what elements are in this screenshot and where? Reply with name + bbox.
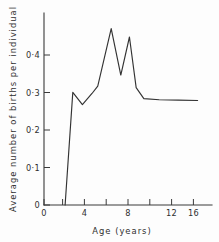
y-axis-ticks: [44, 55, 50, 205]
y-axis: 0 0·1 0·2 0·3 0·4 Average number of birt…: [8, 6, 50, 212]
x-axis-tick-labels: 0 4 8 12 16: [41, 208, 199, 218]
x-tick-label-2: 8: [125, 208, 131, 218]
x-tick-label-3: 12: [166, 208, 177, 218]
y-axis-tick-labels: 0 0·1 0·2 0·3 0·4: [26, 50, 40, 210]
y-tick-label-2: 0·2: [26, 125, 40, 135]
y-tick-label-4: 0·4: [26, 50, 40, 60]
x-axis-title: Age (years): [92, 226, 151, 236]
y-axis-title: Average number of births per individual: [8, 6, 18, 212]
x-axis-ticks: [44, 199, 193, 205]
line-chart: 0 0·1 0·2 0·3 0·4 Average number of birt…: [0, 0, 219, 242]
x-tick-label-1: 4: [82, 208, 88, 218]
x-tick-label-0: 0: [41, 208, 47, 218]
y-tick-label-3: 0·3: [26, 88, 40, 98]
data-series-group: [65, 29, 197, 205]
chart-figure: 0 0·1 0·2 0·3 0·4 Average number of birt…: [0, 0, 219, 242]
x-axis: 0 4 8 12 16 Age (years): [41, 199, 212, 236]
y-tick-label-1: 0·1: [26, 163, 40, 173]
data-line-births: [65, 29, 197, 205]
y-tick-label-0: 0: [34, 200, 40, 210]
x-tick-label-4: 16: [188, 208, 199, 218]
